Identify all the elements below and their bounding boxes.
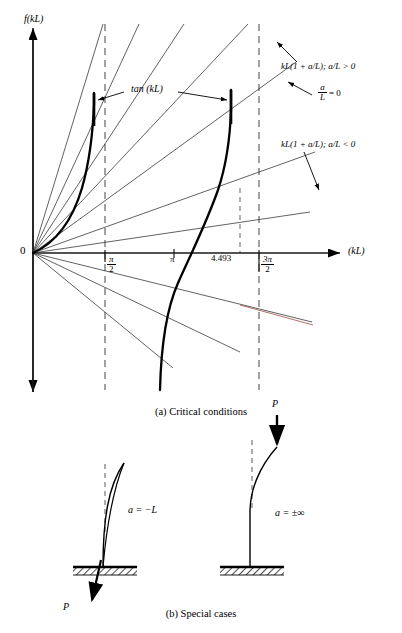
plot-a-critical-conditions — [33, 24, 340, 392]
asymptote-lines — [105, 24, 259, 390]
right-deflected-column — [250, 447, 277, 567]
x-axis-label: (kL) — [348, 246, 365, 256]
xtick-3pi-over-2: 3π 2 — [261, 256, 274, 276]
left-base-hatch — [73, 567, 137, 575]
xtick-pi-over-2-den: 2 — [107, 265, 116, 274]
special-case-right-load-label: P — [272, 399, 278, 409]
y-axis-label: f(kL) — [24, 14, 43, 24]
special-cases-group — [73, 415, 284, 600]
ray-negative-2 — [33, 212, 310, 253]
caption-b: (b) Special cases — [0, 608, 402, 619]
right-base-hatch — [220, 567, 284, 575]
ray-aL-zero-line — [33, 62, 296, 253]
annotation-aL-zero-den: L — [318, 93, 327, 102]
ray-positive-2 — [33, 24, 139, 253]
annotation-aL-zero: a L = 0 — [318, 84, 341, 104]
ray-aL-zero — [33, 62, 296, 253]
special-case-left-load-label: P — [63, 602, 69, 612]
ray-negative-1 — [33, 152, 315, 253]
annotation-positive-aL: kL(1 + a/L); a/L > 0 — [281, 62, 355, 71]
xtick-pi: π — [170, 255, 175, 264]
ray-positive-4 — [33, 24, 248, 253]
tan-curve-label: tan (kL) — [131, 84, 163, 94]
special-case-right — [220, 415, 284, 575]
left-deflected-column — [103, 463, 124, 567]
figure-root: f(kL) (kL) 0 π 2 π 4.493 3π 2 tan (kL) k… — [0, 0, 402, 633]
axes — [33, 28, 340, 392]
figure-svg — [0, 0, 402, 633]
xtick-4493: 4.493 — [211, 254, 231, 263]
xtick-3pi-over-2-den: 2 — [261, 265, 274, 274]
leader-negative-aL — [304, 152, 319, 190]
annotation-aL-zero-eq: = 0 — [329, 89, 341, 98]
rays-positive-aL — [33, 24, 248, 253]
leader-positive-aL — [277, 42, 297, 62]
ray-negative-4 — [33, 253, 240, 352]
ray-negative-red-continuation — [240, 305, 313, 325]
annotation-negative-aL: kL(1 + a/L); a/L < 0 — [281, 140, 355, 149]
origin-label: 0 — [20, 245, 26, 256]
special-case-left-label: a = −L — [128, 505, 157, 515]
tan-leader-left — [98, 92, 124, 100]
ray-positive-3 — [33, 24, 184, 253]
caption-a: (a) Critical conditions — [0, 406, 402, 417]
xtick-pi-over-2: π 2 — [107, 256, 116, 276]
leader-aL-zero — [288, 82, 312, 95]
special-case-left — [73, 463, 137, 600]
tan-branch-2 — [160, 110, 231, 390]
tan-leader-right — [178, 92, 227, 100]
special-case-right-label: a = ±∞ — [275, 508, 304, 518]
